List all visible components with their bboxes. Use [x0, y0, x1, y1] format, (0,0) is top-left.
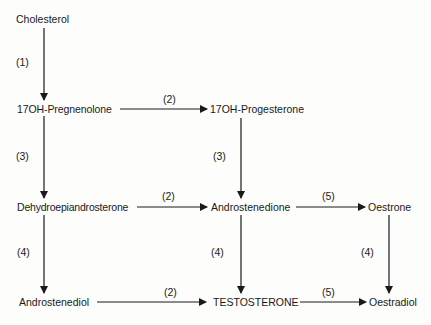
- node-cholesterol: Cholesterol: [16, 13, 69, 25]
- edge-label-1: (1): [16, 56, 29, 68]
- node-17oh-progesterone: 17OH-Progesterone: [210, 103, 304, 115]
- node-17oh-pregnenolone: 17OH-Pregnenolone: [17, 103, 112, 115]
- node-testosterone: TESTOSTERONE: [213, 296, 299, 308]
- node-oestrone: Oestrone: [368, 201, 411, 213]
- steroid-pathway-diagram: Cholesterol 17OH-Pregnenolone 17OH-Proge…: [0, 0, 431, 325]
- edge-label-3-left: (3): [16, 150, 29, 162]
- node-oestradiol: Oestradiol: [369, 296, 417, 308]
- edge-label-4-left: (4): [17, 246, 30, 258]
- edge-label-5-mid: (5): [322, 190, 335, 202]
- edge-label-2-bottom: (2): [164, 286, 177, 298]
- edge-label-4-right: (4): [361, 246, 374, 258]
- node-androstenediol: Androstenediol: [19, 296, 89, 308]
- edge-label-5-bottom: (5): [322, 286, 335, 298]
- arrows-layer: [0, 0, 431, 325]
- edge-label-3-mid: (3): [213, 150, 226, 162]
- edge-label-4-mid: (4): [211, 246, 224, 258]
- node-dehydroepiandrosterone: Dehydroepiandrosterone: [17, 201, 128, 213]
- edge-label-2-mid: (2): [162, 190, 175, 202]
- edge-label-2-top: (2): [163, 93, 176, 105]
- node-androstenedione: Androstenedione: [211, 201, 290, 213]
